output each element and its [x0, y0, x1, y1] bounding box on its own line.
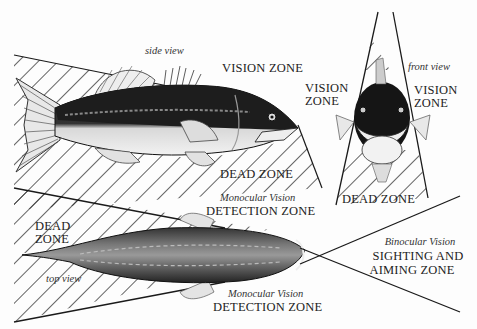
front-vision-zone-right-line1: VISION — [414, 84, 458, 97]
front-view-caption: front view — [408, 62, 450, 73]
front-dead-zone-label: DEAD ZONE — [342, 193, 415, 206]
upper-monocular-sublabel: Monocular Vision — [220, 193, 295, 204]
side-view-caption: side view — [145, 46, 184, 57]
fish-vision-diagram: side view VISION ZONE DEAD ZONE front vi… — [0, 0, 477, 329]
lower-monocular-label: DETECTION ZONE — [213, 301, 322, 314]
upper-monocular-label: DETECTION ZONE — [206, 205, 315, 218]
binocular-label-line2: AIMING ZONE — [362, 264, 462, 277]
binocular-sublabel: Binocular Vision — [370, 237, 470, 248]
front-vision-zone-left-line1: VISION — [305, 82, 349, 95]
top-dead-zone-line2: ZONE — [35, 233, 69, 246]
side-dead-zone-label: DEAD ZONE — [220, 168, 293, 181]
top-view-caption: top view — [46, 274, 81, 285]
side-vision-zone-label: VISION ZONE — [222, 62, 303, 75]
front-vision-zone-left-line2: ZONE — [305, 95, 339, 108]
front-vision-zone-right-line2: ZONE — [414, 97, 448, 110]
top-dead-zone-line1: DEAD — [35, 220, 71, 233]
lower-monocular-sublabel: Monocular Vision — [228, 289, 303, 300]
binocular-label-line1: SIGHTING AND — [362, 250, 474, 263]
